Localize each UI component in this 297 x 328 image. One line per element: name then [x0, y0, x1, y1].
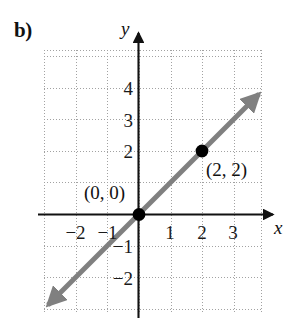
graph-figure: b) [0, 0, 297, 328]
x-tick-label-neg1: −1 [93, 222, 122, 244]
y-tick-label-3: 3 [113, 110, 133, 132]
y-tick-label-2: 2 [113, 141, 133, 163]
point-marker-2-2 [196, 145, 209, 158]
y-axis-label: y [121, 18, 129, 40]
x-tick-label-2: 2 [192, 222, 212, 244]
function-line-y-equals-x [48, 94, 259, 305]
point-label-origin: (0, 0) [84, 182, 125, 204]
y-tick-label-neg2: −2 [104, 268, 133, 290]
x-tick-label-neg2: −2 [61, 222, 90, 244]
graph-overlay [0, 0, 297, 328]
x-tick-label-1: 1 [160, 222, 180, 244]
x-axis-label: x [274, 217, 282, 239]
y-tick-label-4: 4 [113, 78, 133, 100]
point-label-2-2: (2, 2) [206, 159, 247, 181]
point-marker-origin [133, 208, 146, 221]
x-tick-label-3: 3 [223, 222, 243, 244]
